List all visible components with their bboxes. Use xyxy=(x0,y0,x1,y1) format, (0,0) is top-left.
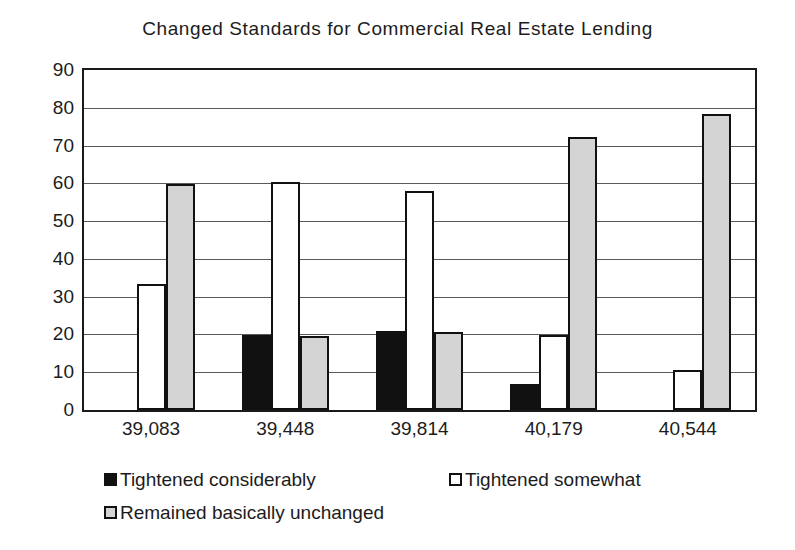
gridline-10 xyxy=(84,372,755,373)
x-axis: 39,08339,44839,81440,17940,544 xyxy=(82,418,757,448)
y-axis-tick-label: 40 xyxy=(2,248,74,270)
x-axis-tick-label: 40,544 xyxy=(659,418,717,440)
legend-label: Tightened somewhat xyxy=(465,470,641,489)
chart-title: Changed Standards for Commercial Real Es… xyxy=(0,18,795,40)
legend-item[interactable]: Tightened considerably xyxy=(104,470,316,489)
bar-chart: Changed Standards for Commercial Real Es… xyxy=(0,0,795,550)
gridline-30 xyxy=(84,297,755,298)
gridline-50 xyxy=(84,221,755,222)
gridline-20 xyxy=(84,334,755,335)
gridline-80 xyxy=(84,108,755,109)
legend-label: Remained basically unchanged xyxy=(120,503,384,522)
x-axis-tick-label: 39,448 xyxy=(256,418,314,440)
y-axis-tick-label: 50 xyxy=(2,210,74,232)
plot-area xyxy=(82,68,757,412)
y-axis-tick-label: 10 xyxy=(2,361,74,383)
x-axis-tick-label: 40,179 xyxy=(525,418,583,440)
legend-item[interactable]: Tightened somewhat xyxy=(449,470,641,489)
y-axis-tick-label: 90 xyxy=(2,59,74,81)
gridline-70 xyxy=(84,146,755,147)
y-axis-tick-label: 80 xyxy=(2,97,74,119)
y-axis: 0102030405060708090 xyxy=(0,0,74,550)
gridline-60 xyxy=(84,183,755,184)
y-axis-tick-label: 60 xyxy=(2,172,74,194)
legend-swatch-icon xyxy=(104,473,117,486)
y-axis-tick-label: 70 xyxy=(2,135,74,157)
chart-legend: Tightened considerablyTightened somewhat… xyxy=(104,470,764,532)
y-axis-tick-label: 0 xyxy=(2,399,74,421)
legend-swatch-icon xyxy=(449,473,462,486)
gridline-40 xyxy=(84,259,755,260)
x-axis-tick-label: 39,814 xyxy=(390,418,448,440)
legend-item[interactable]: Remained basically unchanged xyxy=(104,503,384,522)
y-axis-tick-label: 30 xyxy=(2,286,74,308)
y-axis-tick-label: 20 xyxy=(2,323,74,345)
legend-label: Tightened considerably xyxy=(120,470,316,489)
legend-swatch-icon xyxy=(104,506,117,519)
x-axis-tick-label: 39,083 xyxy=(122,418,180,440)
